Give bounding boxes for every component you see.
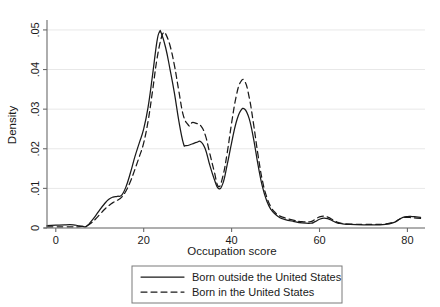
x-tick-label: 20 (138, 234, 150, 246)
series-line-0 (47, 30, 421, 226)
y-tick-label: 0 (29, 225, 41, 231)
legend-label-born-outside: Born outside the United States (192, 271, 342, 283)
y-tick-label: .05 (29, 22, 41, 37)
axes-group (44, 20, 425, 228)
gridlines (47, 30, 425, 228)
series-group (47, 30, 421, 226)
x-tick-label: 60 (313, 234, 325, 246)
legend-label-born-in: Born in the United States (192, 286, 315, 298)
x-axis-title: Occupation score (187, 245, 277, 257)
axis-ticks: 0.01.02.03.04.05020406080 (29, 22, 414, 246)
y-tick-label: .04 (29, 62, 41, 77)
y-tick-label: .03 (29, 102, 41, 117)
chart-canvas: 0.01.02.03.04.05020406080 Occupation sco… (0, 0, 440, 307)
x-tick-label: 80 (401, 234, 413, 246)
legend: Born outside the United States Born in t… (132, 266, 342, 303)
y-axis-title: Density (6, 106, 18, 145)
x-tick-label: 0 (53, 234, 59, 246)
y-tick-label: .02 (29, 141, 41, 156)
y-tick-label: .01 (29, 181, 41, 196)
density-plot: 0.01.02.03.04.05020406080 Occupation sco… (0, 0, 440, 307)
